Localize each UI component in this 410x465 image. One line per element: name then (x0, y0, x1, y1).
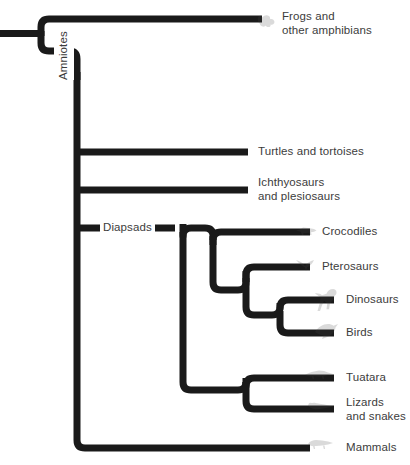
dinosaur-icon (313, 287, 339, 313)
tip-label-tuatara: Tuatara (346, 371, 386, 385)
tip-label-frogs: Frogs and other amphibians (282, 10, 372, 37)
node-label-amniotes: Amniotes (54, 31, 74, 80)
branch-diapsid-to-archosaurs (183, 228, 213, 240)
tip-label-pterosaurs: Pterosaurs (322, 260, 379, 274)
tip-label-dinosaurs: Dinosaurs (346, 293, 399, 307)
tip-label-crocodiles: Crocodiles (322, 225, 377, 239)
node-label-diapsads: Diapsads (100, 221, 155, 233)
tuatara-icon (304, 368, 334, 380)
lizard-icon (306, 400, 334, 412)
bird-icon (313, 320, 339, 340)
tip-label-ichthyosaurs: Ichthyosaurs and plesiosaurs (258, 176, 340, 203)
tip-label-birds: Birds (346, 326, 373, 340)
tip-label-lizards-snakes: Lizards and snakes (346, 396, 406, 423)
tip-label-mammals: Mammals (346, 441, 397, 455)
mammal-icon (306, 438, 334, 450)
frog-icon (256, 12, 278, 28)
branch-pterosaur-dino-vertical (246, 271, 280, 315)
tip-label-turtles: Turtles and tortoises (258, 145, 364, 159)
pterosaur-icon (295, 257, 317, 273)
branch-archosaur-vertical (213, 236, 246, 290)
crocodile-icon (295, 224, 317, 236)
branch-frogs (41, 19, 262, 36)
